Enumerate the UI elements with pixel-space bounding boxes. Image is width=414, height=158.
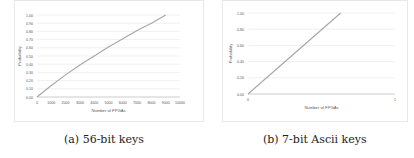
x-axis-title: Number of FPGAs (91, 108, 125, 113)
chart-7-bit-ascii-keys: 0.000.200.400.600.801.0001Number of FPGA… (222, 0, 408, 122)
caption-56-bit-keys: (a) 56-bit keys (64, 133, 144, 146)
y-tick-label: 1.00 (26, 14, 33, 18)
x-tick-label: 3000 (76, 101, 84, 105)
y-tick-label: 0.80 (26, 30, 33, 34)
x-axis-title: Number of FPGAs (304, 105, 338, 110)
chart-frame (223, 1, 408, 122)
y-tick-label: 0.70 (26, 38, 33, 42)
x-tick-label: 9000 (162, 101, 170, 105)
x-tick-label: 7000 (133, 101, 141, 105)
y-tick-label: 0.20 (26, 79, 33, 83)
x-tick-label: 8000 (147, 101, 155, 105)
x-tick-label: 0 (247, 98, 249, 102)
chart-canvas: 0.000.200.400.600.801.0001Number of FPGA… (222, 0, 408, 122)
chart-canvas: 0.000.100.200.300.400.500.600.700.800.90… (14, 0, 204, 122)
y-tick-label: 0.40 (26, 63, 33, 67)
y-tick-label: 0.90 (26, 22, 33, 26)
y-tick-label: 0.10 (26, 87, 33, 91)
chart-56-bit-keys: 0.000.100.200.300.400.500.600.700.800.90… (14, 0, 204, 122)
x-tick-label: 1 (394, 98, 396, 102)
x-tick-label: 4000 (90, 101, 98, 105)
y-tick-label: 0.50 (26, 55, 33, 59)
x-tick-label: 0 (36, 101, 38, 105)
x-tick-label: 10000 (175, 101, 185, 105)
x-tick-label: 1000 (47, 101, 55, 105)
y-tick-label: 0.20 (237, 76, 244, 80)
caption-7-bit-ascii-keys: (b) 7-bit Ascii keys (263, 133, 367, 146)
y-tick-label: 0.60 (26, 46, 33, 50)
x-tick-label: 5000 (105, 101, 113, 105)
y-tick-label: 0.60 (237, 44, 244, 48)
y-axis-title: Probability (17, 45, 22, 65)
y-tick-label: 0.30 (26, 71, 33, 75)
y-tick-label: 0.00 (237, 93, 244, 97)
y-tick-label: 0.40 (237, 60, 244, 64)
x-tick-label: 6000 (119, 101, 127, 105)
y-tick-label: 1.00 (237, 12, 244, 16)
y-axis-title: Probability (228, 43, 233, 63)
y-tick-label: 0.00 (26, 96, 33, 100)
y-tick-label: 0.80 (237, 28, 244, 32)
x-tick-label: 2000 (62, 101, 70, 105)
